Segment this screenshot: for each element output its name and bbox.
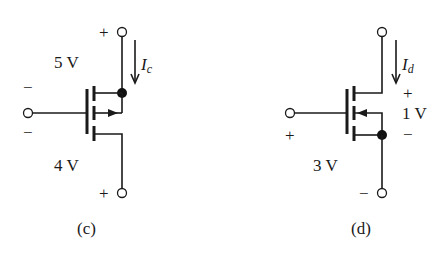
current-label-d: Id xyxy=(401,55,415,76)
gate-sign-d: + xyxy=(285,126,295,145)
gate-terminal-d xyxy=(286,109,295,118)
circuit-c: + 5 V − − 4 V + Ic (c) xyxy=(23,23,153,238)
top-sign-c: + xyxy=(99,23,109,42)
ds-voltage-d: 1 V xyxy=(402,104,427,123)
source-wire-c xyxy=(94,134,122,189)
circuit-d: Id + 1 V − + 3 V − (d) xyxy=(285,28,427,239)
upper-voltage-c: 5 V xyxy=(54,53,79,72)
gate-sign-top-c: − xyxy=(23,78,33,97)
circuit-figure: + 5 V − − 4 V + Ic (c) Id + 1 V − + 3 V xyxy=(0,0,443,254)
top-terminal-c xyxy=(118,28,127,37)
arrow-right-icon xyxy=(108,109,118,117)
bottom-terminal-d xyxy=(378,189,387,198)
body-lead-d xyxy=(354,113,382,135)
gate-sign-bottom-c: − xyxy=(23,123,33,142)
arrow-left-icon xyxy=(357,109,367,117)
bottom-sign-d: − xyxy=(359,184,369,203)
ds-minus-d: − xyxy=(403,125,413,144)
caption-c: (c) xyxy=(77,219,96,238)
gate-voltage-d: 3 V xyxy=(313,156,338,175)
bottom-sign-c: + xyxy=(99,184,109,203)
caption-d: (d) xyxy=(351,219,371,238)
top-terminal-d xyxy=(378,28,387,37)
drain-wire-d xyxy=(354,37,382,94)
lower-voltage-c: 4 V xyxy=(54,156,79,175)
gate-terminal-c xyxy=(24,109,33,118)
current-label-c: Ic xyxy=(140,55,153,76)
ds-plus-d: + xyxy=(403,84,413,103)
bottom-terminal-c xyxy=(118,189,127,198)
